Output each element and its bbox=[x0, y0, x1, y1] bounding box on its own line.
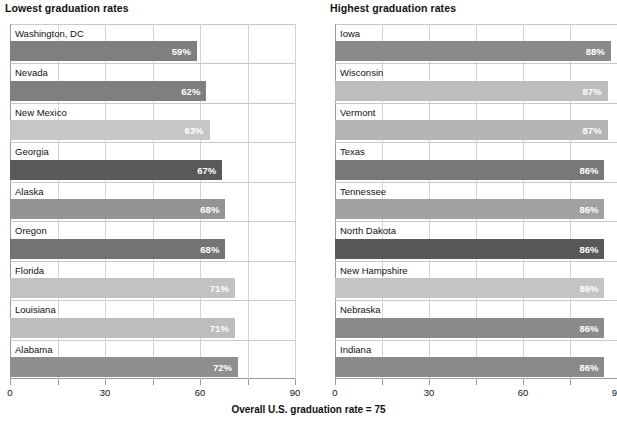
bar[interactable]: 87% bbox=[335, 120, 608, 140]
bar-row-label: Georgia bbox=[15, 144, 49, 160]
bar[interactable]: 68% bbox=[10, 239, 225, 259]
x-axis-tick-30 bbox=[429, 379, 430, 385]
x-axis-tick-label-90: 90 bbox=[612, 387, 617, 398]
row-separator bbox=[335, 221, 617, 222]
bar-row-label: Iowa bbox=[340, 26, 360, 42]
bar-value-label: 59% bbox=[172, 46, 191, 57]
bar-row[interactable]: Texas86% bbox=[335, 142, 617, 181]
bar[interactable]: 71% bbox=[10, 318, 235, 338]
bar-row[interactable]: New Hampshire86% bbox=[335, 261, 617, 300]
x-axis-tick-90 bbox=[295, 379, 296, 385]
panel-title-lowest: Lowest graduation rates bbox=[5, 2, 129, 14]
bar-row-label: New Hampshire bbox=[340, 263, 408, 279]
row-separator bbox=[335, 103, 617, 104]
bar-row[interactable]: Tennessee86% bbox=[335, 182, 617, 221]
bar-value-label: 67% bbox=[197, 164, 216, 175]
bar[interactable]: 59% bbox=[10, 41, 197, 61]
bar-rows-lowest: Washington, DC59%Nevada62%New Mexico63%G… bbox=[10, 24, 295, 379]
x-axis-tick-15 bbox=[58, 379, 59, 385]
bar-row[interactable]: Alaska68% bbox=[10, 182, 295, 221]
bar-row[interactable]: Iowa88% bbox=[335, 24, 617, 63]
bar-row[interactable]: North Dakota86% bbox=[335, 221, 617, 260]
x-axis-tick-label-60: 60 bbox=[518, 387, 529, 398]
bar-value-label: 63% bbox=[184, 125, 203, 136]
x-axis-tick-label-0: 0 bbox=[332, 387, 337, 398]
row-separator bbox=[335, 63, 617, 64]
x-axis-lowest: 0306090 bbox=[10, 379, 295, 403]
x-axis-tick-75 bbox=[570, 379, 571, 385]
row-separator bbox=[10, 63, 295, 64]
bar[interactable]: 86% bbox=[335, 318, 604, 338]
bar-row[interactable]: Louisiana71% bbox=[10, 300, 295, 339]
x-axis-tick-60 bbox=[523, 379, 524, 385]
bar[interactable]: 86% bbox=[335, 357, 604, 377]
bar[interactable]: 71% bbox=[10, 278, 235, 298]
bar-value-label: 68% bbox=[200, 204, 219, 215]
bar-row-label: Nevada bbox=[15, 65, 48, 81]
panel-highest-graduation-rates: Highest graduation rates Iowa88%Wisconsi… bbox=[325, 0, 617, 430]
gridline-90 bbox=[295, 24, 296, 379]
plot-area-lowest: Washington, DC59%Nevada62%New Mexico63%G… bbox=[10, 24, 295, 379]
bar[interactable]: 68% bbox=[10, 199, 225, 219]
bar-row-label: Louisiana bbox=[15, 302, 56, 318]
bar-row[interactable]: Nevada62% bbox=[10, 63, 295, 102]
bar[interactable]: 87% bbox=[335, 81, 608, 101]
row-separator bbox=[335, 300, 617, 301]
bar-row[interactable]: Nebraska86% bbox=[335, 300, 617, 339]
bar-value-label: 86% bbox=[579, 164, 598, 175]
row-separator bbox=[335, 340, 617, 341]
bar[interactable]: 62% bbox=[10, 81, 206, 101]
bar-value-label: 72% bbox=[213, 361, 232, 372]
bar-value-label: 62% bbox=[181, 85, 200, 96]
bar[interactable]: 63% bbox=[10, 120, 210, 140]
bar-row-label: Indiana bbox=[340, 342, 371, 358]
bar-value-label: 86% bbox=[579, 361, 598, 372]
row-separator bbox=[335, 182, 617, 183]
row-separator bbox=[335, 142, 617, 143]
bar-row-label: Vermont bbox=[340, 105, 375, 121]
bar[interactable]: 67% bbox=[10, 160, 222, 180]
x-axis-tick-15 bbox=[382, 379, 383, 385]
row-separator bbox=[10, 221, 295, 222]
bar-row[interactable]: Florida71% bbox=[10, 261, 295, 300]
x-axis-tick-30 bbox=[105, 379, 106, 385]
bar[interactable]: 86% bbox=[335, 278, 604, 298]
bar[interactable]: 86% bbox=[335, 160, 604, 180]
bar-row[interactable]: New Mexico63% bbox=[10, 103, 295, 142]
bar-value-label: 86% bbox=[579, 283, 598, 294]
bar-row-label: Alabama bbox=[15, 342, 53, 358]
row-separator bbox=[335, 261, 617, 262]
row-separator bbox=[10, 340, 295, 341]
bar-value-label: 71% bbox=[210, 283, 229, 294]
row-separator bbox=[10, 182, 295, 183]
bar-row-label: Florida bbox=[15, 263, 44, 279]
row-separator bbox=[10, 261, 295, 262]
bar-row-label: Oregon bbox=[15, 223, 47, 239]
bar-row[interactable]: Wisconsin87% bbox=[335, 63, 617, 102]
bar-row-label: North Dakota bbox=[340, 223, 396, 239]
bar-row[interactable]: Georgia67% bbox=[10, 142, 295, 181]
bar[interactable]: 72% bbox=[10, 357, 238, 377]
bar-row-label: New Mexico bbox=[15, 105, 67, 121]
bar[interactable]: 88% bbox=[335, 41, 611, 61]
bar-value-label: 86% bbox=[579, 322, 598, 333]
bar-row[interactable]: Oregon68% bbox=[10, 221, 295, 260]
panel-title-highest: Highest graduation rates bbox=[330, 2, 456, 14]
bar-row[interactable]: Alabama72% bbox=[10, 340, 295, 379]
x-axis-tick-0 bbox=[10, 379, 11, 385]
bar-row-label: Washington, DC bbox=[15, 26, 84, 42]
bar-value-label: 87% bbox=[583, 85, 602, 96]
bar-row-label: Texas bbox=[340, 144, 365, 160]
bar-row[interactable]: Indiana86% bbox=[335, 340, 617, 379]
bar-value-label: 87% bbox=[583, 125, 602, 136]
x-axis-tick-label-0: 0 bbox=[7, 387, 12, 398]
bar[interactable]: 86% bbox=[335, 199, 604, 219]
bar-value-label: 86% bbox=[579, 243, 598, 254]
x-axis-tick-label-30: 30 bbox=[100, 387, 111, 398]
bar-value-label: 68% bbox=[200, 243, 219, 254]
bar-row[interactable]: Washington, DC59% bbox=[10, 24, 295, 63]
bar-row[interactable]: Vermont87% bbox=[335, 103, 617, 142]
bar-row-label: Wisconsin bbox=[340, 65, 383, 81]
row-separator bbox=[10, 142, 295, 143]
bar[interactable]: 86% bbox=[335, 239, 604, 259]
